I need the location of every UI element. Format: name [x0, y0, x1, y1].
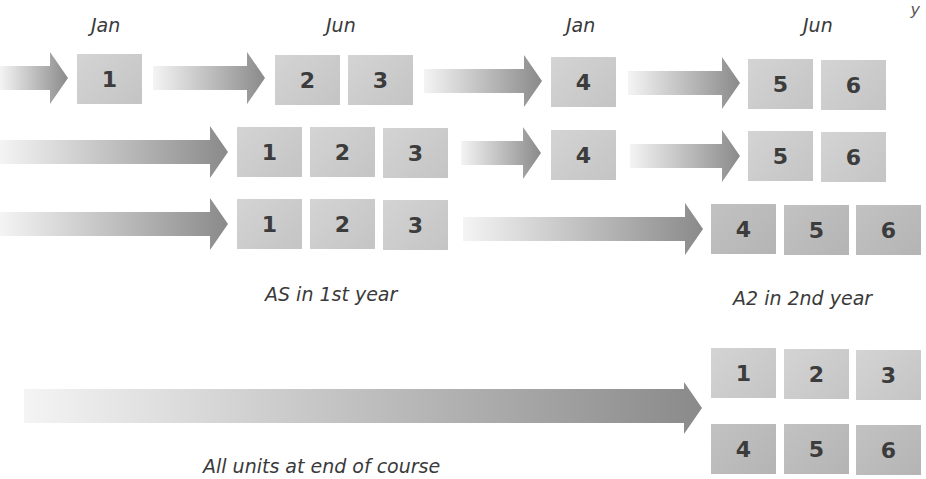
month-label-jun-1: Jun: [326, 14, 356, 36]
arrow-icon: [0, 126, 228, 178]
arrow-icon: [461, 127, 541, 179]
unit-box-2: 2: [310, 199, 375, 249]
month-label-jun-2: Jun: [803, 14, 833, 36]
caption-as-first-year: AS in 1st year: [265, 283, 397, 305]
unit-box-1: 1: [711, 348, 776, 398]
caption-a2-second-year: A2 in 2nd year: [733, 287, 872, 309]
arrow-icon: [628, 57, 740, 109]
unit-box-6: 6: [856, 425, 921, 475]
unit-box-2: 2: [784, 349, 849, 399]
arrow-icon: [0, 52, 68, 104]
month-label-jan-1: Jan: [91, 14, 120, 36]
arrow-icon: [463, 203, 703, 255]
caption-all-units-end-of-course: All units at end of course: [203, 455, 440, 477]
arrow-icon: [424, 55, 542, 107]
unit-box-4: 4: [711, 424, 776, 474]
arrow-icon: [153, 52, 265, 104]
unit-box-4: 4: [551, 130, 616, 180]
arrow-icon: [24, 382, 702, 434]
arrow-icon: [0, 198, 228, 250]
unit-box-3: 3: [383, 128, 448, 178]
month-label-jan-2: Jan: [566, 14, 595, 36]
unit-box-2: 2: [275, 55, 340, 105]
unit-box-3: 3: [383, 200, 448, 250]
unit-box-2: 2: [310, 127, 375, 177]
unit-box-1: 1: [237, 199, 302, 249]
unit-box-5: 5: [784, 424, 849, 474]
unit-box-1: 1: [237, 127, 302, 177]
corner-glyph: y: [911, 0, 920, 19]
unit-box-5: 5: [748, 131, 813, 181]
arrow-icon: [630, 130, 740, 182]
unit-box-3: 3: [348, 55, 413, 105]
unit-box-6: 6: [856, 205, 921, 255]
unit-box-4: 4: [711, 204, 776, 254]
unit-box-5: 5: [784, 205, 849, 255]
unit-box-1: 1: [77, 54, 142, 104]
unit-box-5: 5: [748, 59, 813, 109]
unit-box-4: 4: [551, 57, 616, 107]
unit-box-6: 6: [821, 60, 886, 110]
unit-box-3: 3: [856, 350, 921, 400]
unit-box-6: 6: [821, 132, 886, 182]
